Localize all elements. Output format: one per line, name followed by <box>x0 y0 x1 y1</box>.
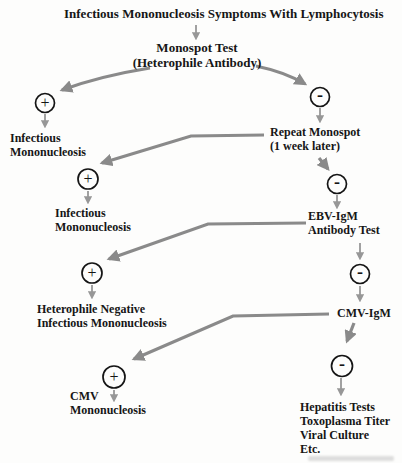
arrow-monospot-to-negative1 <box>256 66 305 84</box>
node-line: Infectious Mononucleosis <box>37 316 167 330</box>
node-line: Infectious <box>10 131 86 145</box>
node-repeat-monospot: Repeat Monospot (1 week later) <box>270 125 360 153</box>
positive-circle-4: + <box>103 366 125 388</box>
node-line: Etc. <box>300 442 390 456</box>
diagram-title: Infectious Mononucleosis Symptoms With L… <box>64 7 384 22</box>
arrow-cmvigm-to-negative4 <box>347 323 354 341</box>
node-line: (Heterophile Antibody) <box>133 56 262 71</box>
plus-icon: + <box>109 368 118 385</box>
negative-circle-2: - <box>328 172 347 194</box>
flowchart: + - + - + - + - Infectiou <box>0 0 402 463</box>
arrow-monospot-to-positive1 <box>62 68 150 90</box>
node-line: Hepatitis Tests <box>300 400 390 414</box>
node-line: CMV-IgM <box>337 306 391 320</box>
node-heterophile-negative-im: Heterophile Negative Infectious Mononucl… <box>37 302 167 330</box>
node-cmv-igm: CMV-IgM <box>337 306 391 320</box>
positive-circle-3: + <box>82 263 102 283</box>
positive-circle-1: + <box>36 94 55 113</box>
negative-circle-3: - <box>351 262 370 284</box>
arrow-ebv-to-positive3 <box>109 223 306 259</box>
node-line: Toxoplasma Titer <box>300 414 390 428</box>
node-cmv-mononucleosis: CMV Mononucleosis <box>70 389 146 417</box>
node-line: (1 week later) <box>270 139 360 153</box>
node-infectious-mononucleosis-2: Infectious Mononucleosis <box>55 206 131 234</box>
plus-icon: + <box>87 264 96 281</box>
node-line: EBV-IgM <box>308 209 380 223</box>
node-line: Heterophile Negative <box>37 302 167 316</box>
scan-artifact <box>308 456 394 461</box>
arrow-repeat-to-negative2 <box>319 158 328 169</box>
node-other-workup: Hepatitis Tests Toxoplasma Titer Viral C… <box>300 400 390 456</box>
node-infectious-mononucleosis-1: Infectious Mononucleosis <box>10 131 86 159</box>
node-line: Monospot Test <box>133 41 262 56</box>
node-line: Mononucleosis <box>70 403 146 417</box>
plus-icon: + <box>40 94 49 111</box>
node-monospot-test: Monospot Test (Heterophile Antibody) <box>133 41 262 70</box>
node-line: Viral Culture <box>300 428 390 442</box>
positive-circle-2: + <box>78 169 98 189</box>
node-ebv-igm-antibody-test: EBV-IgM Antibody Test <box>308 209 380 237</box>
negative-circle-1: - <box>311 85 330 107</box>
node-line: Mononucleosis <box>10 145 86 159</box>
arrow-repeat-to-positive2 <box>102 135 264 163</box>
minus-icon: - <box>339 354 345 374</box>
plus-icon: + <box>83 170 92 187</box>
minus-icon: - <box>334 172 340 192</box>
node-line: Repeat Monospot <box>270 125 360 139</box>
node-line: Antibody Test <box>308 223 380 237</box>
node-line: Mononucleosis <box>55 220 131 234</box>
negative-circle-4: - <box>332 354 353 377</box>
minus-icon: - <box>357 262 363 282</box>
node-line: CMV <box>70 389 146 403</box>
minus-icon: - <box>317 85 323 105</box>
node-line: Infectious <box>55 206 131 220</box>
